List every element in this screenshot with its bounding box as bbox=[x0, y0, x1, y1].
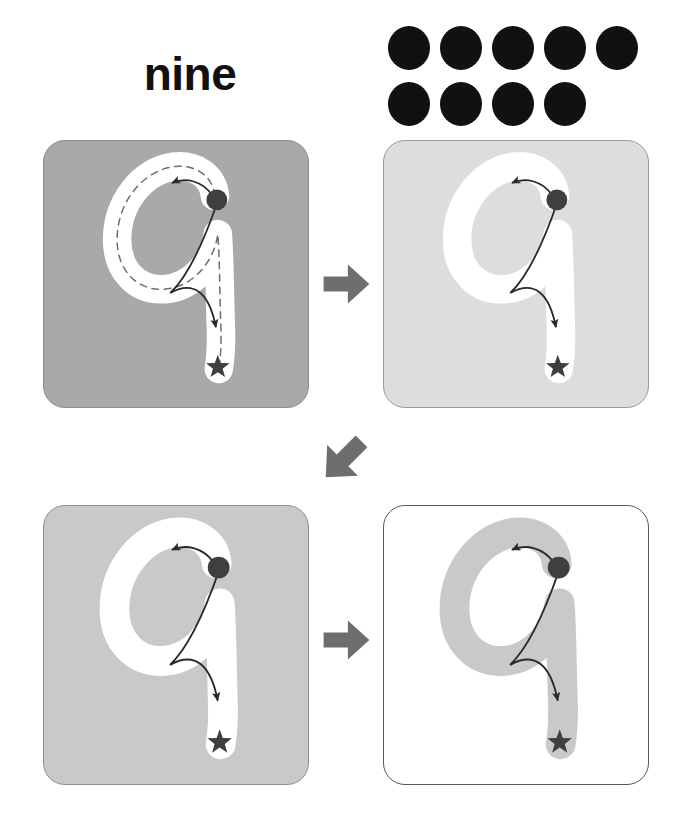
counting-dot-row bbox=[388, 82, 596, 126]
tracing-panel-step-2[interactable] bbox=[383, 140, 649, 408]
step-arrow-right-icon-2 bbox=[318, 612, 374, 668]
header-row: nine bbox=[0, 0, 682, 135]
counting-dot-row bbox=[388, 26, 648, 70]
number-glyph-9 bbox=[44, 141, 308, 407]
glyph-stroke bbox=[114, 532, 223, 744]
start-dot-marker bbox=[206, 189, 227, 210]
worksheet-canvas: nine bbox=[0, 0, 682, 820]
arrow-shape bbox=[324, 620, 370, 659]
number-glyph-9 bbox=[44, 506, 308, 784]
number-glyph-9 bbox=[384, 141, 648, 407]
counting-dot bbox=[440, 82, 482, 126]
start-dot-marker bbox=[548, 557, 570, 579]
step-arrow-down-left-icon bbox=[313, 428, 375, 490]
panel-2-content bbox=[384, 141, 648, 407]
counting-dots-group bbox=[388, 26, 638, 128]
panel-3-content bbox=[44, 506, 308, 784]
counting-dot bbox=[492, 26, 534, 70]
writing-panel-step-4[interactable] bbox=[383, 505, 649, 785]
glyph-stroke bbox=[454, 532, 563, 744]
counting-dot bbox=[388, 26, 430, 70]
counting-dot bbox=[544, 26, 586, 70]
tracing-panel-step-3[interactable] bbox=[43, 505, 309, 785]
panel-1-content bbox=[44, 141, 308, 407]
glyph-stroke bbox=[457, 166, 561, 369]
glyph-stroke bbox=[117, 166, 221, 369]
counting-dot bbox=[388, 82, 430, 126]
number-glyph-9 bbox=[384, 506, 648, 784]
arrow-shape bbox=[313, 428, 375, 490]
number-word-label: nine bbox=[100, 42, 280, 106]
counting-dot bbox=[596, 26, 638, 70]
start-dot-marker bbox=[208, 557, 230, 579]
start-dot-marker bbox=[546, 189, 567, 210]
counting-dot bbox=[492, 82, 534, 126]
panel-4-content bbox=[384, 506, 648, 784]
counting-dot bbox=[544, 82, 586, 126]
tracing-panel-step-1[interactable] bbox=[43, 140, 309, 408]
arrow-shape bbox=[324, 264, 370, 303]
counting-dot bbox=[440, 26, 482, 70]
step-arrow-right-icon bbox=[318, 256, 374, 312]
